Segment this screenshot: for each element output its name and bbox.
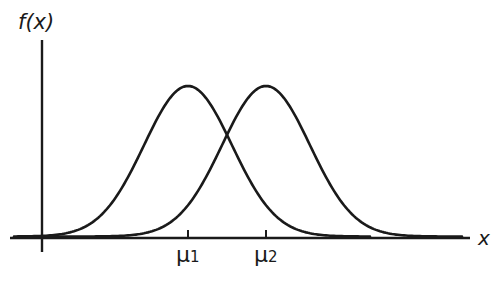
tick-label-mu2: μ2 bbox=[254, 242, 278, 267]
tick-label-mu1: μ1 bbox=[176, 242, 200, 267]
mu1-subscript: 1 bbox=[190, 248, 200, 266]
mu1-symbol: μ bbox=[176, 242, 190, 267]
chart-canvas bbox=[0, 0, 499, 290]
mu2-symbol: μ bbox=[254, 242, 268, 267]
mu2-subscript: 2 bbox=[268, 248, 278, 266]
y-axis-label: f(x) bbox=[18, 10, 54, 34]
x-axis-label: x bbox=[478, 226, 490, 250]
